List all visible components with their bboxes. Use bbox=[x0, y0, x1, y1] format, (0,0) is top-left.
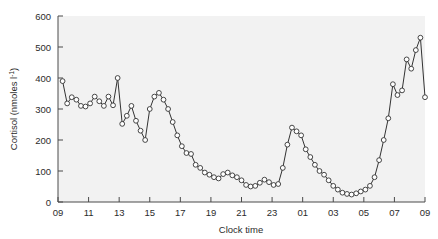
data-point-marker bbox=[134, 118, 139, 123]
data-point-marker bbox=[101, 104, 106, 109]
plot-background bbox=[58, 16, 425, 202]
data-point-marker bbox=[60, 79, 65, 84]
data-point-marker bbox=[290, 125, 295, 130]
data-point-marker bbox=[285, 142, 290, 147]
y-tick-label: 400 bbox=[35, 73, 51, 84]
data-point-marker bbox=[262, 177, 267, 182]
data-point-marker bbox=[79, 104, 84, 109]
data-point-marker bbox=[390, 82, 395, 87]
data-point-marker bbox=[413, 48, 418, 53]
data-point-marker bbox=[88, 101, 93, 106]
data-point-marker bbox=[166, 107, 171, 112]
x-tick-label: 05 bbox=[359, 207, 370, 218]
data-point-marker bbox=[386, 116, 391, 121]
data-point-marker bbox=[276, 182, 281, 187]
data-point-marker bbox=[400, 88, 405, 93]
x-tick-label: 17 bbox=[175, 207, 186, 218]
y-axis-title: Cortisol (nmoles l-1) bbox=[8, 68, 20, 150]
x-tick-label: 07 bbox=[389, 207, 400, 218]
data-point-marker bbox=[404, 57, 409, 62]
data-point-marker bbox=[271, 183, 276, 188]
data-point-marker bbox=[129, 104, 134, 109]
data-point-marker bbox=[299, 133, 304, 138]
data-point-marker bbox=[340, 190, 345, 195]
x-tick-label: 15 bbox=[144, 207, 155, 218]
data-point-marker bbox=[157, 90, 162, 95]
data-point-marker bbox=[69, 95, 74, 100]
x-tick-label: 13 bbox=[114, 207, 125, 218]
data-point-marker bbox=[111, 103, 116, 108]
data-point-marker bbox=[193, 162, 198, 167]
data-point-marker bbox=[372, 175, 377, 180]
data-point-marker bbox=[395, 93, 400, 98]
data-point-marker bbox=[198, 166, 203, 171]
data-point-marker bbox=[303, 147, 308, 152]
y-tick-label: 500 bbox=[35, 42, 51, 53]
data-point-marker bbox=[253, 183, 258, 188]
data-point-marker bbox=[143, 138, 148, 143]
data-point-marker bbox=[317, 169, 322, 174]
data-point-marker bbox=[331, 183, 336, 188]
y-tick-label: 100 bbox=[35, 166, 51, 177]
data-point-marker bbox=[409, 66, 414, 71]
data-point-marker bbox=[83, 104, 88, 109]
data-point-marker bbox=[184, 151, 189, 156]
data-point-marker bbox=[65, 101, 70, 106]
data-point-marker bbox=[322, 172, 327, 177]
x-tick-label: 23 bbox=[267, 207, 278, 218]
x-tick-label: 21 bbox=[236, 207, 247, 218]
data-point-marker bbox=[170, 120, 175, 125]
data-point-marker bbox=[368, 183, 373, 188]
data-point-marker bbox=[152, 94, 157, 99]
data-point-marker bbox=[257, 180, 262, 185]
data-point-marker bbox=[97, 99, 102, 104]
x-tick-label: 01 bbox=[297, 207, 308, 218]
data-point-marker bbox=[381, 138, 386, 143]
data-point-marker bbox=[92, 94, 97, 99]
data-point-marker bbox=[106, 94, 111, 99]
data-point-marker bbox=[239, 178, 244, 183]
data-point-marker bbox=[230, 173, 235, 178]
data-point-marker bbox=[120, 121, 125, 126]
x-axis-title: Clock time bbox=[219, 224, 263, 235]
figure-container: 0100200300400500600 09111315171921230103… bbox=[0, 0, 438, 239]
data-point-marker bbox=[326, 178, 331, 183]
x-tick-label: 09 bbox=[420, 207, 431, 218]
data-point-marker bbox=[235, 175, 240, 180]
y-tick-label: 0 bbox=[46, 197, 51, 208]
data-point-marker bbox=[354, 191, 359, 196]
data-point-marker bbox=[189, 152, 194, 157]
data-point-marker bbox=[349, 192, 354, 197]
y-tick-label: 200 bbox=[35, 135, 51, 146]
data-point-marker bbox=[115, 76, 120, 81]
data-point-marker bbox=[74, 97, 79, 102]
data-point-marker bbox=[358, 189, 363, 194]
data-point-marker bbox=[124, 113, 129, 118]
data-point-marker bbox=[335, 187, 340, 192]
x-tick-label: 11 bbox=[84, 207, 94, 218]
data-point-marker bbox=[294, 129, 299, 134]
data-point-marker bbox=[377, 158, 382, 163]
data-point-marker bbox=[308, 155, 313, 160]
data-point-marker bbox=[248, 184, 253, 189]
data-point-marker bbox=[175, 133, 180, 138]
x-tick-label: 19 bbox=[206, 207, 217, 218]
data-point-marker bbox=[345, 192, 350, 197]
data-point-marker bbox=[161, 97, 166, 102]
data-point-marker bbox=[216, 176, 221, 181]
data-point-marker bbox=[147, 107, 152, 112]
x-tick-label: 09 bbox=[53, 207, 64, 218]
data-point-marker bbox=[138, 128, 143, 133]
data-point-marker bbox=[423, 95, 428, 100]
data-point-marker bbox=[221, 172, 226, 177]
data-point-marker bbox=[418, 35, 423, 40]
data-point-marker bbox=[244, 183, 249, 188]
data-point-marker bbox=[202, 170, 207, 175]
data-point-marker bbox=[313, 162, 318, 167]
x-tick-label: 03 bbox=[328, 207, 339, 218]
data-point-marker bbox=[280, 166, 285, 171]
y-tick-label: 300 bbox=[35, 104, 51, 115]
y-tick-label: 600 bbox=[35, 11, 51, 22]
cortisol-line-chart: 0100200300400500600 09111315171921230103… bbox=[0, 0, 438, 239]
data-point-marker bbox=[225, 170, 230, 175]
